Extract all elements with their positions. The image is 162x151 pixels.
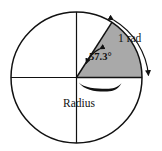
radius-label: Radius (63, 97, 95, 109)
radian-diagram-figure: 1 rad 57.3° Radius (0, 0, 162, 151)
central-angle-label: 57.3° (89, 51, 112, 62)
radian-diagram-svg: 1 rad 57.3° Radius (0, 0, 162, 151)
arc-length-label: 1 rad (118, 32, 142, 44)
